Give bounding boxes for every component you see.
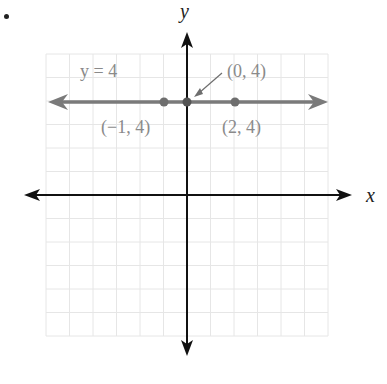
equation-label: y = 4	[80, 61, 117, 81]
y-axis-label: y	[178, 0, 189, 23]
pointer-arrow-icon	[194, 73, 222, 97]
point-0-4	[183, 98, 192, 107]
point-2-4	[231, 98, 240, 107]
point-neg1-4	[160, 98, 169, 107]
point-label-0-4: (0, 4)	[227, 61, 266, 82]
x-axis-label: x	[365, 184, 375, 206]
point-label-2-4: (2, 4)	[222, 117, 261, 138]
point-label-neg1-4: (−1, 4)	[101, 117, 150, 138]
coordinate-graph: x y y = 4 (−1, 4) (0, 4) (2, 4)	[0, 0, 387, 384]
